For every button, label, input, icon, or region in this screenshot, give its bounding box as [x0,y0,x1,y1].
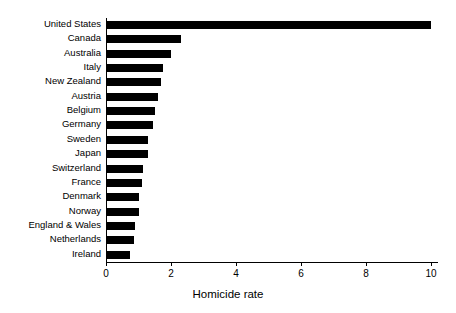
category-label: England & Wales [1,220,101,230]
plot-area [106,18,436,262]
bar [106,208,139,216]
bar-row [106,248,436,262]
category-label: France [1,177,101,187]
bar-row [106,147,436,161]
bar [106,236,134,244]
category-label: Belgium [1,105,101,115]
bar [106,165,143,173]
bar [106,251,130,259]
bar-row [106,104,436,118]
category-label: Australia [1,48,101,58]
bar [106,21,431,29]
category-label: Italy [1,62,101,72]
homicide-rate-bar-chart: United StatesCanadaAustraliaItalyNew Zea… [0,0,456,313]
x-tick-mark [171,262,172,266]
x-tick-label: 2 [168,268,174,280]
x-axis-title: Homicide rate [0,288,456,300]
bar [106,50,171,58]
x-tick-mark [236,262,237,266]
category-label: Japan [1,148,101,158]
bar [106,78,161,86]
x-tick-label: 6 [298,268,304,280]
bar [106,136,148,144]
category-label: Canada [1,33,101,43]
bar-row [106,176,436,190]
category-label: Germany [1,119,101,129]
bar [106,64,163,72]
category-label: Sweden [1,134,101,144]
bar [106,107,155,115]
bar [106,93,158,101]
x-tick-mark [431,262,432,266]
bar-row [106,18,436,32]
bar-row [106,190,436,204]
bar-row [106,61,436,75]
bar-row [106,233,436,247]
bar [106,222,135,230]
bar-row [106,162,436,176]
bar-row [106,75,436,89]
x-tick-label: 0 [103,268,109,280]
x-axis-line [106,262,438,263]
bar-row [106,90,436,104]
category-label: Norway [1,206,101,216]
x-tick-label: 4 [233,268,239,280]
x-tick-mark [301,262,302,266]
bar [106,35,181,43]
bar [106,193,139,201]
x-tick-mark [106,262,107,266]
category-label: United States [1,19,101,29]
category-axis-labels: United StatesCanadaAustraliaItalyNew Zea… [0,18,101,262]
category-label: Netherlands [1,234,101,244]
category-label: Switzerland [1,163,101,173]
x-tick-mark [366,262,367,266]
bar-row [106,219,436,233]
bar-row [106,118,436,132]
bar [106,150,148,158]
bar-row [106,133,436,147]
category-label: Austria [1,91,101,101]
bar-row [106,32,436,46]
bar [106,179,142,187]
category-label: Denmark [1,191,101,201]
category-label: New Zealand [1,76,101,86]
bar-row [106,47,436,61]
bar-row [106,205,436,219]
category-label: Ireland [1,249,101,259]
x-tick-label: 10 [425,268,436,280]
bar [106,121,153,129]
x-tick-label: 8 [363,268,369,280]
